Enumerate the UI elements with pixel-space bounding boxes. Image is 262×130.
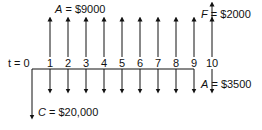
period-label: 9 [191, 58, 197, 69]
initial-cost-label: C = $20,000 [38, 107, 98, 118]
period-label: 4 [101, 58, 107, 69]
annual-cost-value: = $3500 [208, 78, 251, 90]
period-label: 6 [137, 58, 143, 69]
period-label: 8 [173, 58, 179, 69]
period-label: 2 [65, 58, 71, 69]
annual-income-value: = $9000 [62, 3, 105, 15]
future-value-var: F [201, 8, 208, 20]
period-label: 10 [206, 58, 218, 69]
future-value-value: = $2000 [208, 8, 251, 20]
time-axis-label: t = 0 [8, 58, 30, 69]
period-label: 1 [47, 58, 53, 69]
period-label: 5 [119, 58, 125, 69]
future-value-label: F = $2000 [201, 9, 251, 20]
initial-cost-value: = $20,000 [46, 106, 98, 118]
annual-cost-label: A = $3500 [201, 79, 251, 90]
period-label: 7 [155, 58, 161, 69]
period-label: 3 [83, 58, 89, 69]
initial-cost-var: C [38, 106, 46, 118]
annual-income-label: A = $9000 [55, 4, 105, 15]
